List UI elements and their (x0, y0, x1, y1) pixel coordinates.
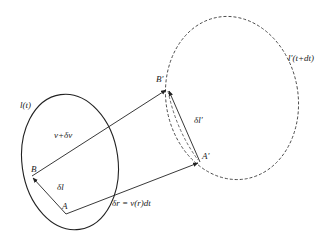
label-l-t: l(t) (20, 101, 31, 110)
label-l-prime: l′(t+dt) (288, 54, 314, 63)
label-v-plus-dv: v+δv (54, 131, 72, 140)
label-point-B-prime: B′ (156, 75, 163, 84)
label-point-A: A (62, 202, 68, 211)
label-dl: δl (57, 183, 64, 192)
vector-v-plus-dv (32, 90, 166, 176)
label-point-B: B (31, 165, 37, 174)
label-dr: δr = v(r)dt (112, 199, 151, 208)
final-curve (153, 6, 311, 190)
material-line-diagram (0, 0, 330, 232)
label-point-A-prime: A′ (202, 152, 209, 161)
label-dl-prime: δl′ (194, 116, 203, 125)
final-segment-arc (168, 91, 198, 160)
